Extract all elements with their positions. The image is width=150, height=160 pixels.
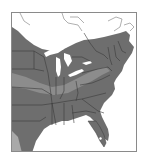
range-map: [12, 13, 137, 152]
range-map-frame: [11, 12, 137, 152]
